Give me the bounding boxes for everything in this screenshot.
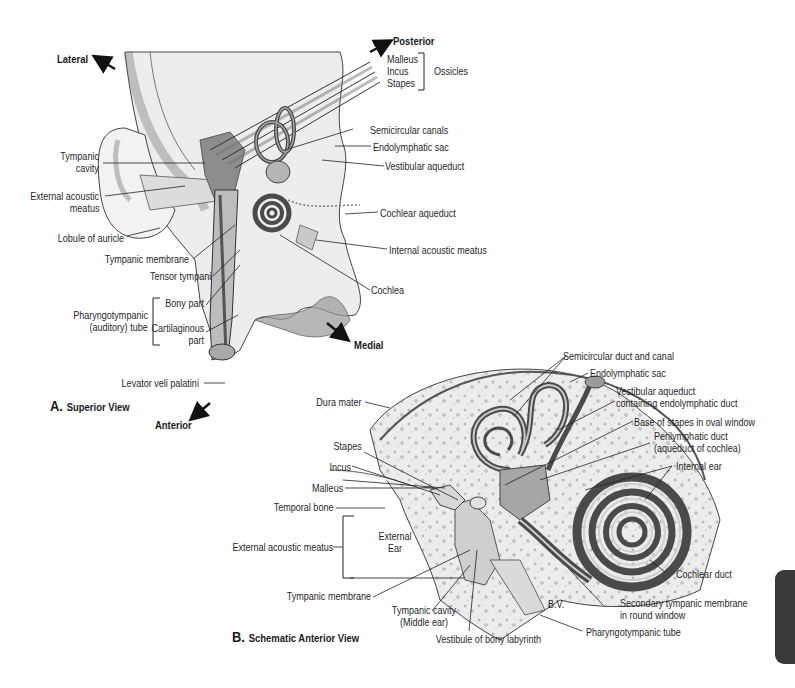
caption-a-letter: A. bbox=[50, 397, 63, 414]
caption-a-text: Superior View bbox=[67, 401, 130, 413]
label-tensor-tympani: Tensor tympani bbox=[150, 270, 211, 282]
label-stapes-b: Stapes bbox=[334, 440, 362, 452]
label-endolymphatic-sac-a: Endolymphatic sac bbox=[373, 141, 449, 153]
label-levator-veli-palatini: Levator veli palatini bbox=[122, 377, 199, 389]
label-tympanic-cavity-b-line2: (Middle ear) bbox=[390, 616, 459, 628]
label-cochlear-aqueduct: Cochlear aqueduct bbox=[380, 207, 456, 219]
direction-medial: Medial bbox=[354, 339, 383, 351]
label-tympanic-cavity-a-line2: cavity bbox=[76, 162, 99, 174]
artist-signature-b: B.V. bbox=[548, 598, 564, 610]
label-secondary-tympanic-line1: Secondary tympanic membrane bbox=[620, 597, 747, 609]
label-internal-acoustic-meatus: Internal acoustic meatus bbox=[389, 244, 487, 256]
label-cartilaginous-line1: Cartilaginous bbox=[151, 322, 204, 334]
label-pharyngotympanic-tube-b: Pharyngotympanic tube bbox=[586, 626, 681, 638]
label-lobule-of-auricle: Lobule of auricle bbox=[58, 232, 124, 244]
label-external-ear-line2: Ear bbox=[369, 542, 421, 554]
label-tympanic-membrane-a: Tympanic membrane bbox=[105, 253, 189, 265]
label-cartilaginous-line2: part bbox=[188, 334, 204, 346]
label-dura-mater: Dura mater bbox=[317, 396, 362, 408]
label-pharyngotympanic-a-line2: (auditory) tube bbox=[90, 321, 148, 333]
label-bony-part: Bony part bbox=[165, 297, 204, 309]
label-tympanic-cavity-b-line1: Tympanic cavity bbox=[390, 604, 459, 616]
caption-b-text: Schematic Anterior View bbox=[249, 632, 359, 644]
direction-posterior: Posterior bbox=[393, 35, 435, 47]
figure-a-superior-view bbox=[98, 44, 424, 415]
label-external-ear-line1: External bbox=[369, 530, 421, 542]
label-stapes-a: Stapes bbox=[387, 77, 415, 89]
label-external-acoustic-meatus-a-line1: External acoustic bbox=[30, 190, 99, 202]
label-endolymphatic-sac-b: Endolymphatic sac bbox=[590, 367, 666, 379]
label-vestibular-aqueduct-b-line1: Vestibular aqueduct bbox=[616, 385, 695, 397]
label-ossicles: Ossicles bbox=[434, 65, 468, 77]
label-semicircular-duct-and-canal: Semicircular duct and canal bbox=[563, 350, 674, 362]
label-secondary-tympanic-line2: in round window bbox=[620, 609, 685, 621]
label-tympanic-membrane-b: Tympanic membrane bbox=[287, 590, 371, 602]
chapter-thumb-tab bbox=[775, 570, 795, 664]
label-internal-ear: Internal ear bbox=[676, 460, 722, 472]
label-cochlear-duct: Cochlear duct bbox=[676, 568, 732, 580]
label-cochlea: Cochlea bbox=[371, 284, 404, 296]
label-vestibule-of-bony-labyrinth: Vestibule of bony labyrinth bbox=[436, 633, 531, 645]
label-incus-a: Incus bbox=[387, 65, 409, 77]
label-semicircular-canals: Semicircular canals bbox=[370, 124, 448, 136]
label-malleus-a: Malleus bbox=[387, 53, 418, 65]
direction-lateral: Lateral bbox=[57, 53, 88, 65]
caption-figure-b: B. Schematic Anterior View bbox=[232, 628, 359, 646]
label-tympanic-cavity-a-line1: Tympanic bbox=[60, 150, 99, 162]
label-vestibular-aqueduct-a: Vestibular aqueduct bbox=[385, 160, 464, 172]
label-base-of-stapes: Base of stapes in oval window bbox=[634, 416, 755, 428]
label-vestibular-aqueduct-b-line2: containing endolymphatic duct bbox=[616, 397, 737, 409]
label-malleus-b: Malleus bbox=[312, 482, 343, 494]
label-incus-b: Incus bbox=[329, 461, 351, 473]
label-external-acoustic-meatus-a-line2: meatus bbox=[69, 202, 99, 214]
label-external-acoustic-meatus-b: External acoustic meatus bbox=[232, 541, 333, 553]
caption-figure-a: A. Superior View bbox=[50, 397, 130, 415]
direction-anterior: Anterior bbox=[155, 419, 192, 431]
label-pharyngotympanic-a-line1: Pharyngotympanic bbox=[73, 309, 148, 321]
label-temporal-bone: Temporal bone bbox=[273, 501, 333, 513]
label-perilymphatic-duct-line1: Perilymphatic duct bbox=[654, 430, 728, 442]
caption-b-letter: B. bbox=[232, 628, 245, 645]
label-perilymphatic-duct-line2: (aqueduct of cochlea) bbox=[654, 442, 741, 454]
